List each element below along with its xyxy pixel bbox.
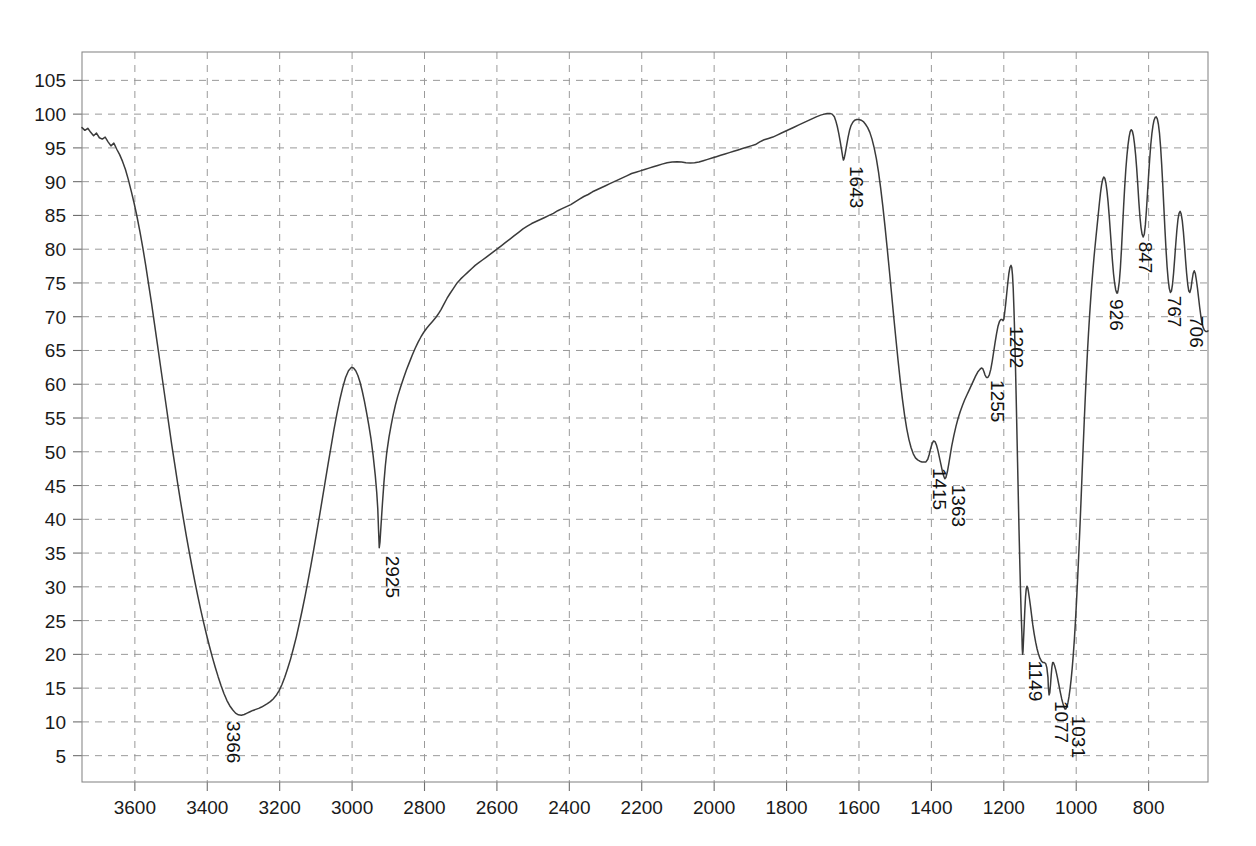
- y-axis-tick-label: 75: [45, 273, 66, 294]
- x-axis-tick-label: 2800: [403, 797, 445, 818]
- peak-annotation-label: 1255: [987, 380, 1008, 422]
- x-axis-labels-group: 3600340032003000280026002400220020001800…: [114, 797, 1165, 818]
- x-axis-tick-label: 1400: [910, 797, 952, 818]
- x-axis-tick-label: 1200: [983, 797, 1025, 818]
- y-axis-tick-label: 40: [45, 509, 66, 530]
- x-axis-tick-label: 1800: [765, 797, 807, 818]
- peak-annotation-label: 1031: [1068, 716, 1089, 758]
- y-axis-tick-label: 45: [45, 476, 66, 497]
- y-axis-tick-label: 65: [45, 340, 66, 361]
- x-axis-tick-label: 3000: [331, 797, 373, 818]
- y-axis-tick-label: 70: [45, 307, 66, 328]
- x-axis-tick-label: 800: [1133, 797, 1165, 818]
- x-axis-tick-label: 2000: [693, 797, 735, 818]
- peak-labels-group: 3366292516431415136312551202114910771031…: [223, 166, 1207, 763]
- y-axis-tick-label: 15: [45, 678, 66, 699]
- x-axis-tick-label: 3200: [259, 797, 301, 818]
- peak-annotation-label: 1415: [929, 468, 950, 510]
- peak-annotation-label: 2925: [382, 556, 403, 598]
- x-axis-tick-label: 2600: [476, 797, 518, 818]
- y-axis-tick-label: 105: [34, 70, 66, 91]
- x-axis-tick-label: 1000: [1055, 797, 1097, 818]
- y-axis-tick-label: 85: [45, 205, 66, 226]
- ir-spectrum-chart: 5101520253035404550556065707580859095100…: [0, 0, 1256, 846]
- peak-annotation-label: 1149: [1025, 660, 1046, 701]
- y-axis-tick-label: 25: [45, 611, 66, 632]
- y-axis-tick-label: 35: [45, 543, 66, 564]
- peak-annotation-label: 1643: [846, 166, 867, 208]
- x-axis-tick-label: 1600: [838, 797, 880, 818]
- x-axis-tick-label: 2200: [621, 797, 663, 818]
- peak-annotation-label: 767: [1164, 296, 1185, 328]
- y-axis-tick-label: 100: [34, 104, 66, 125]
- spectrum-trace-line: [82, 113, 1208, 715]
- tickmarks-group: [73, 80, 1149, 791]
- y-axis-tick-label: 95: [45, 138, 66, 159]
- y-axis-tick-label: 10: [45, 712, 66, 733]
- x-axis-tick-label: 3600: [114, 797, 156, 818]
- y-axis-tick-label: 90: [45, 172, 66, 193]
- spectrum-plot: 5101520253035404550556065707580859095100…: [0, 0, 1256, 846]
- y-axis-tick-label: 50: [45, 442, 66, 463]
- y-axis-tick-label: 55: [45, 408, 66, 429]
- y-axis-tick-label: 5: [55, 746, 66, 767]
- y-axis-labels-group: 5101520253035404550556065707580859095100…: [34, 70, 66, 766]
- y-axis-tick-label: 60: [45, 374, 66, 395]
- y-axis-tick-label: 80: [45, 239, 66, 260]
- peak-annotation-label: 1363: [948, 485, 969, 527]
- x-axis-tick-label: 3400: [186, 797, 228, 818]
- peak-annotation-label: 3366: [223, 721, 244, 763]
- y-axis-tick-label: 20: [45, 644, 66, 665]
- x-axis-tick-label: 2400: [548, 797, 590, 818]
- peak-annotation-label: 847: [1135, 242, 1156, 274]
- peak-annotation-label: 706: [1186, 316, 1207, 348]
- peak-annotation-label: 926: [1106, 299, 1127, 331]
- peak-annotation-label: 1202: [1006, 326, 1027, 368]
- y-axis-tick-label: 30: [45, 577, 66, 598]
